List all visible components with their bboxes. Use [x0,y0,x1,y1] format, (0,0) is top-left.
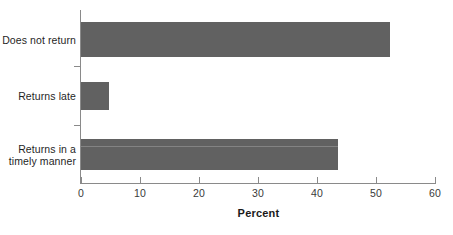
y-axis-tick-1 [74,125,81,126]
x-axis-tick-30 [258,177,259,184]
x-axis-tick-label-60: 60 [429,187,441,199]
x-axis-tick-40 [317,177,318,184]
y-axis-tick-0 [74,66,81,67]
x-axis-tick-label-0: 0 [78,187,84,199]
x-axis-tick-20 [199,177,200,184]
x-axis-title-text: Percent [238,207,280,219]
x-axis-tick-label-30: 30 [252,187,264,199]
category-label: Returns in a timely manner [9,143,76,167]
bar [81,82,109,110]
bar-chart: 0102030405060 Does not returnReturns lat… [0,0,453,235]
bar [81,139,338,170]
x-axis-tick-50 [376,177,377,184]
x-axis-tick-label-40: 40 [311,187,323,199]
x-axis-tick-60 [435,177,436,184]
category-label: Returns late [18,90,76,102]
x-axis-tick-label-20: 20 [193,187,205,199]
x-axis-tick-0 [81,177,82,184]
bar [81,22,390,57]
x-axis-tick-label-50: 50 [370,187,382,199]
x-axis-tick-10 [140,177,141,184]
x-axis-tick-label-10: 10 [134,187,146,199]
x-axis-title: Percent [0,207,453,219]
category-label: Does not return [2,34,76,46]
